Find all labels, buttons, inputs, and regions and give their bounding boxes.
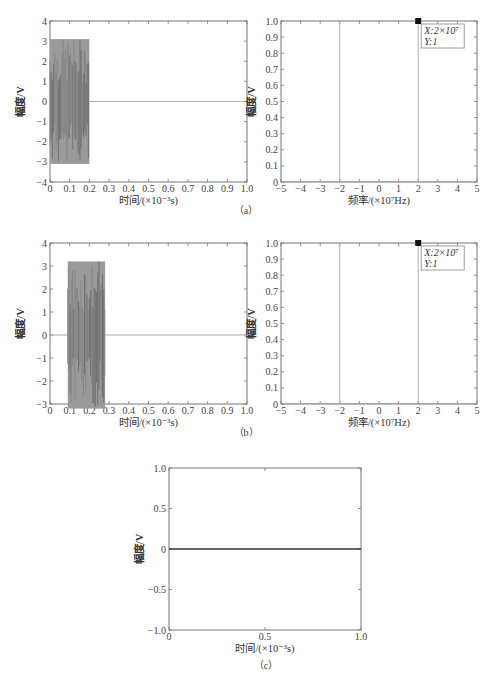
datatip-y: Y:1 <box>424 258 437 269</box>
y-tick-label: 1 <box>42 307 47 318</box>
y-tick-label: 2 <box>42 284 47 295</box>
plot-a_freq: −5−4−3−2−101234500.10.20.30.40.50.60.70.… <box>245 16 480 208</box>
y-tick-label: 0.5 <box>266 96 279 107</box>
x-tick-label: −2 <box>334 405 345 416</box>
x-tick-label: 1 <box>396 405 401 416</box>
x-tick-label: 1.0 <box>355 631 368 642</box>
y-tick-label: 3 <box>42 36 47 47</box>
x-tick-label: −3 <box>315 183 326 194</box>
datatip-marker[interactable] <box>415 240 421 246</box>
y-tick-label: 0.1 <box>266 382 279 393</box>
y-tick-label: −1.0 <box>148 625 166 636</box>
y-tick-label: 1.0 <box>266 238 279 249</box>
y-tick-label: 0.7 <box>266 286 279 297</box>
x-tick-label: −4 <box>295 405 306 416</box>
x-tick-label: 0.8 <box>201 183 214 194</box>
y-tick-label: 0.8 <box>266 270 279 281</box>
x-tick-label: 3 <box>435 183 440 194</box>
y-tick-label: 0.8 <box>266 48 279 59</box>
x-tick-label: 0.6 <box>162 405 175 416</box>
datatip-marker[interactable] <box>415 18 421 24</box>
x-tick-label: 5 <box>475 405 480 416</box>
caption-a: （a） <box>234 205 258 216</box>
y-tick-label: −2 <box>36 136 47 147</box>
datatip-y: Y:1 <box>424 36 437 47</box>
y-tick-label: 0.9 <box>266 32 279 43</box>
x-tick-label: 0.5 <box>259 631 272 642</box>
x-axis-label: 时间/(×10⁻³s) <box>119 194 179 207</box>
plot-b_time: 00.10.20.30.40.50.60.70.80.91.0−3−2−1012… <box>14 238 253 430</box>
x-tick-label: 3 <box>435 405 440 416</box>
y-tick-label: 0.2 <box>266 366 279 377</box>
x-tick-label: 0.2 <box>83 183 96 194</box>
y-tick-label: 0.3 <box>266 128 279 139</box>
x-tick-label: 0.8 <box>201 405 214 416</box>
x-tick-label: 0 <box>377 183 382 194</box>
y-tick-label: 4 <box>42 238 47 249</box>
y-tick-label: 0.1 <box>266 160 279 171</box>
x-axis-label: 时间/(×10⁻³s) <box>119 416 179 429</box>
y-tick-label: 3 <box>42 261 47 272</box>
y-tick-label: 0.5 <box>154 503 167 514</box>
x-tick-label: 0.6 <box>162 183 175 194</box>
caption-c: （c） <box>254 660 278 671</box>
x-tick-label: 0.7 <box>182 183 195 194</box>
plot-a_time: 00.10.20.30.40.50.60.70.80.91.0−4−3−2−10… <box>14 16 253 208</box>
x-tick-label: −1 <box>354 405 365 416</box>
y-tick-label: 0.3 <box>266 350 279 361</box>
x-tick-label: 0.5 <box>142 405 155 416</box>
figure-canvas: 00.10.20.30.40.50.60.70.80.91.0−4−3−2−10… <box>0 0 493 685</box>
y-tick-label: 1.0 <box>266 16 279 27</box>
x-tick-label: −3 <box>315 405 326 416</box>
y-tick-label: 0.5 <box>266 318 279 329</box>
x-tick-label: 1.0 <box>241 405 254 416</box>
y-tick-label: 1 <box>42 76 47 87</box>
y-tick-label: −2 <box>36 376 47 387</box>
caption-b: （b） <box>234 427 259 438</box>
x-tick-label: 0.5 <box>142 183 155 194</box>
x-tick-label: 0.9 <box>221 183 234 194</box>
y-tick-label: −3 <box>36 399 47 410</box>
datatip-x: X:2×10⁷ <box>423 25 459 36</box>
y-tick-label: −0.5 <box>148 584 166 595</box>
y-tick-label: 0 <box>42 96 47 107</box>
y-axis-label: 幅度/V <box>245 308 257 339</box>
y-tick-label: 1.0 <box>154 463 167 474</box>
x-axis-label: 频率/(×10⁷Hz) <box>348 416 411 429</box>
x-tick-label: −4 <box>295 183 306 194</box>
x-tick-label: 0.4 <box>123 183 136 194</box>
x-tick-label: 4 <box>455 183 460 194</box>
x-tick-label: 0.7 <box>182 405 195 416</box>
plot-c_time: 00.51.0−1.0−0.500.51.0时间/(×10⁻³s)幅度/V <box>133 463 367 656</box>
y-tick-label: −3 <box>36 156 47 167</box>
y-axis-label: 幅度/V <box>14 86 26 117</box>
x-tick-label: 0.3 <box>103 183 116 194</box>
datatip-x: X:2×10⁷ <box>423 247 459 258</box>
y-tick-label: 0.4 <box>266 112 279 123</box>
x-tick-label: 0.4 <box>123 405 136 416</box>
x-tick-label: 0 <box>167 631 172 642</box>
x-tick-label: 1 <box>396 183 401 194</box>
y-tick-label: 0.6 <box>266 302 279 313</box>
y-tick-label: 0 <box>273 399 278 410</box>
x-tick-label: −1 <box>354 183 365 194</box>
y-tick-label: 0.4 <box>266 334 279 345</box>
x-axis-label: 频率/(×10⁷Hz) <box>348 194 411 207</box>
plot-b_freq: −5−4−3−2−101234500.10.20.30.40.50.60.70.… <box>245 238 480 430</box>
y-tick-label: −1 <box>36 353 47 364</box>
y-tick-label: 0 <box>161 544 166 555</box>
y-tick-label: 2 <box>42 56 47 67</box>
y-tick-label: 4 <box>42 16 47 27</box>
y-axis-label: 幅度/V <box>245 86 257 117</box>
x-tick-label: 0 <box>48 183 53 194</box>
y-tick-label: −1 <box>36 116 47 127</box>
x-tick-label: 5 <box>475 183 480 194</box>
x-axis-label: 时间/(×10⁻³s) <box>235 642 295 655</box>
x-tick-label: 0.9 <box>221 405 234 416</box>
x-tick-label: 1.0 <box>241 183 254 194</box>
x-tick-label: −2 <box>334 183 345 194</box>
x-tick-label: 2 <box>416 183 421 194</box>
x-tick-label: 2 <box>416 405 421 416</box>
y-axis-label: 幅度/V <box>14 308 26 339</box>
signal-burst <box>68 261 105 408</box>
